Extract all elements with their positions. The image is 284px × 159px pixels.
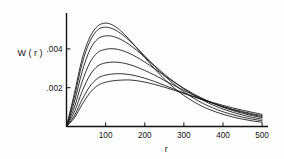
curve-c [67,36,263,127]
x-tick-label: 200 [138,131,152,140]
y-tick-label: .002 [47,84,63,93]
x-tick-label: 500 [255,131,269,140]
curve-f [67,74,263,127]
y-axis-title: W ( r ) [18,48,43,58]
x-axis-title: r [165,144,168,154]
x-tick-label: 100 [99,131,113,140]
figure-panel: 100200300400500.002.004rW ( r ) [0,0,284,159]
x-tick-label: 400 [216,131,230,140]
chart-canvas: 100200300400500.002.004rW ( r ) [0,0,284,159]
y-tick-label: .004 [47,45,63,54]
x-tick-label: 300 [177,131,191,140]
curve-b [67,27,263,126]
curve-g [67,80,263,127]
